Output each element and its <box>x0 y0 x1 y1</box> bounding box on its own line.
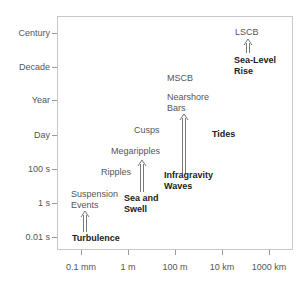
label-mscb: MSCB <box>167 73 193 84</box>
label-lscb: LSCB <box>235 27 259 38</box>
arrow-sea-level-icon <box>244 39 252 53</box>
label-suspension-1: Suspension <box>71 189 118 200</box>
arrow-infragravity-icon <box>180 114 188 174</box>
label-sea-level-rise-2: Rise <box>234 66 253 77</box>
label-sea-level-rise-1: Sea-Level <box>234 55 276 66</box>
label-infragravity-2: Waves <box>164 181 192 192</box>
label-ripples: Ripples <box>101 167 131 178</box>
arrows-layer <box>0 0 308 285</box>
label-nearshore-2: Bars <box>167 103 186 114</box>
label-megaripples: Megaripples <box>111 146 160 157</box>
label-nearshore-1: Nearshore <box>167 92 209 103</box>
label-turbulence: Turbulence <box>72 233 120 244</box>
label-infragravity-1: Infragravity <box>164 170 213 181</box>
label-cusps: Cusps <box>134 125 160 136</box>
arrow-turbulence-icon <box>81 211 89 232</box>
label-sea-swell-2: Swell <box>124 204 147 215</box>
label-sea-swell-1: Sea and <box>124 193 159 204</box>
arrow-sea-swell-icon <box>138 160 146 192</box>
label-tides: Tides <box>212 129 235 140</box>
label-suspension-2: Events <box>71 200 99 211</box>
scale-diagram: Century Decade Year Day 100 s 1 s 0.01 s… <box>0 0 308 285</box>
